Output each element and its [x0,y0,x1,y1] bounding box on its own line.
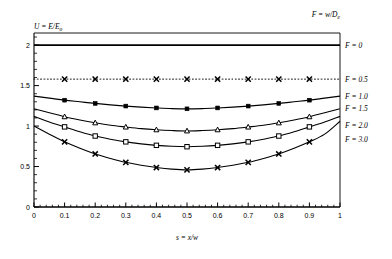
marker-F20 [246,140,250,144]
marker-F10 [246,104,250,108]
marker-F20 [124,140,128,144]
y-axis-title-main: U = E/E [34,22,60,31]
legend-item-F0: F = 0 [344,41,362,50]
marker-F10 [308,98,312,102]
legend-item-F20: F = 2.0 [344,121,368,130]
plot-figure: F = w/De U = E/Eo s = x/w 00.10.20.30.40… [0,0,392,259]
marker-F20 [277,134,281,138]
y-axis-title: U = E/Eo [34,22,62,32]
marker-F10 [185,107,189,111]
x-tick-label: 0.4 [152,212,162,219]
x-tick-label: 0 [32,212,36,219]
marker-F10 [277,102,281,106]
marker-F20 [154,143,158,147]
y-tick-label: 1 [26,123,30,130]
legend-item-F30: F = 3.0 [344,135,368,144]
marker-F20 [62,125,66,129]
marker-F20 [215,143,219,147]
y-axis-title-sub: o [59,26,62,32]
x-tick-label: 1 [338,212,342,219]
marker-F10 [124,104,128,108]
figure-background [0,0,392,259]
marker-F20 [93,134,97,138]
legend-item-F10: F = 1.0 [344,92,368,101]
y-tick-label: 2 [26,42,30,49]
marker-F10 [93,102,97,106]
legend-title: F = w/De [311,10,341,20]
x-axis-title: s = x/w [176,233,198,242]
marker-F10 [155,106,159,110]
marker-F10 [216,106,220,110]
legend-title-main: F = w/D [311,10,338,19]
x-tick-label: 0.1 [60,212,70,219]
x-tick-label: 0.2 [90,212,100,219]
x-tick-label: 0.3 [121,212,131,219]
marker-F20 [307,125,311,129]
y-tick-label: 0.5 [20,163,30,170]
x-tick-label: 0.6 [213,212,223,219]
legend-item-F15: F = 1.5 [344,104,368,113]
y-tick-label: 1.5 [20,82,30,89]
marker-F10 [63,98,67,102]
x-tick-label: 0.8 [274,212,284,219]
y-tick-label: 0 [26,204,30,211]
x-tick-label: 0.5 [182,212,192,219]
x-tick-label: 0.7 [243,212,253,219]
x-tick-label: 0.9 [305,212,315,219]
marker-F20 [185,145,189,149]
legend-item-F05: F = 0.5 [344,75,368,84]
